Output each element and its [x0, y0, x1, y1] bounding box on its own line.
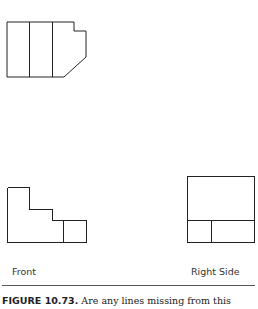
orthographic-drawing	[0, 0, 258, 309]
caption-text: Are any lines missing from this	[78, 295, 231, 306]
front-view-label: Front	[12, 266, 36, 277]
caption-divider	[2, 285, 255, 286]
top-view	[7, 22, 86, 77]
front-view	[8, 188, 87, 243]
figure-caption: FIGURE 10.73. Are any lines missing from…	[2, 295, 231, 306]
right-side-view	[188, 177, 255, 243]
figure-number: FIGURE 10.73.	[2, 295, 78, 306]
right-side-view-label: Right Side	[191, 266, 240, 277]
